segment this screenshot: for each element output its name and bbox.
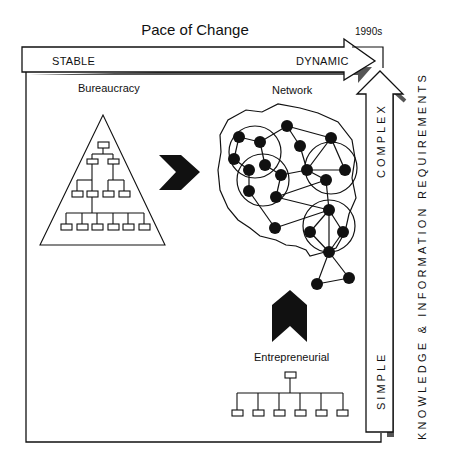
network-diagram [218, 104, 357, 290]
right-chevron-arrow [159, 155, 200, 190]
stable-label: STABLE [52, 55, 95, 67]
era-label: 1990s [355, 26, 382, 37]
knowledge-information-axis-title: KNOWLEDGE & INFORMATION REQUIREMENTS [416, 72, 428, 440]
complex-label: COMPLEX [375, 103, 387, 178]
network-label: Network [272, 84, 312, 96]
entrepreneurial-label: Entrepreneurial [254, 351, 329, 363]
bureaucracy-label: Bureaucracy [78, 82, 140, 94]
pace-of-change-title: Pace of Change [0, 21, 390, 38]
simple-label: SIMPLE [375, 352, 387, 410]
up-chevron-arrow [272, 290, 307, 342]
entrepreneurial-hierarchy [232, 372, 348, 416]
dynamic-label: DYNAMIC [296, 55, 349, 67]
bureaucracy-pyramid [40, 115, 165, 245]
